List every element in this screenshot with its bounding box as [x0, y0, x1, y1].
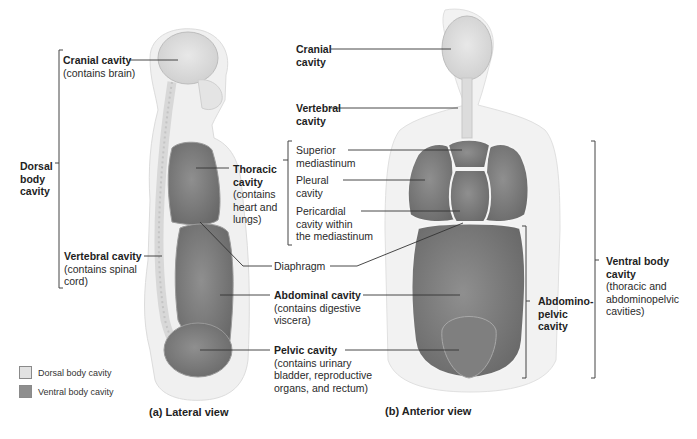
label-abdominopelvic-cavity: Abdomino- pelvic cavity: [538, 295, 593, 333]
label-line: Cranial: [296, 43, 332, 56]
label-pelvic-cavity: Pelvic cavity (contains urinary bladder,…: [274, 344, 372, 394]
anterior-body: [385, 9, 560, 392]
label-line: cavity: [20, 185, 53, 198]
label-dorsal-body-cavity: Dorsal body cavity: [20, 160, 53, 198]
label-ventral-body-cavity: Ventral body cavity (thoracic and abdomi…: [606, 255, 679, 318]
label-line: cavity within: [296, 218, 373, 231]
label-sub: cavities): [606, 305, 679, 318]
legend-label: Ventral body cavity: [38, 387, 114, 397]
label-line: Superior: [296, 144, 356, 157]
label-line: Pericardial: [296, 205, 373, 218]
label-title: Vertebral cavity: [64, 250, 142, 263]
label-line: cavity: [296, 115, 341, 128]
label-title: Ventral body: [606, 255, 679, 268]
label-cranial-cavity-anterior: Cranial cavity: [296, 43, 332, 68]
label-superior-mediastinum: Superior mediastinum: [296, 144, 356, 169]
label-vertebral-cavity-lateral: Vertebral cavity (contains spinal cord): [64, 250, 142, 288]
label-title: Thoracic: [233, 163, 277, 176]
label-sub: (contains brain): [63, 67, 135, 80]
label-line: pelvic: [538, 308, 593, 321]
label-sub: (contains spinal: [64, 263, 142, 276]
label-pleural-cavity: Pleural cavity: [296, 174, 329, 199]
label-sub: bladder, reproductive: [274, 369, 372, 382]
label-abdominal-cavity: Abdominal cavity (contains digestive vis…: [274, 289, 361, 327]
label-title: Cranial cavity: [63, 54, 135, 67]
legend-item-ventral: Ventral body cavity: [19, 385, 114, 398]
label-sub: lungs): [233, 213, 277, 226]
label-line: cavity: [296, 187, 329, 200]
label-title: cavity: [233, 176, 277, 189]
label-sub: (thoracic and: [606, 280, 679, 293]
label-line: Dorsal: [20, 160, 53, 173]
label-sub: abdominopelvic: [606, 293, 679, 306]
label-pericardial-cavity: Pericardial cavity within the mediastinu…: [296, 205, 373, 243]
label-sub: viscera): [274, 314, 361, 327]
label-sub: (contains: [233, 188, 277, 201]
label-cranial-cavity-lateral: Cranial cavity (contains brain): [63, 54, 135, 79]
label-line: body: [20, 173, 53, 186]
label-sub: (contains digestive: [274, 302, 361, 315]
label-title: cavity: [606, 268, 679, 281]
legend-label: Dorsal body cavity: [38, 368, 112, 378]
label-vertebral-cavity-anterior: Vertebral cavity: [296, 102, 341, 127]
label-line: cavity: [296, 56, 332, 69]
label-title: Abdominal cavity: [274, 289, 361, 302]
label-sub: (contains urinary: [274, 357, 372, 370]
label-thoracic-cavity: Thoracic cavity (contains heart and lung…: [233, 163, 277, 226]
legend-item-dorsal: Dorsal body cavity: [19, 366, 112, 379]
label-title: Pelvic cavity: [274, 344, 372, 357]
legend-swatch-ventral: [19, 385, 32, 398]
label-line: cavity: [538, 320, 593, 333]
label-sub: heart and: [233, 201, 277, 214]
label-diaphragm: Diaphragm: [274, 260, 325, 273]
label-line: the mediastinum: [296, 230, 373, 243]
label-line: Abdomino-: [538, 295, 593, 308]
label-sub: cord): [64, 275, 142, 288]
label-line: Pleural: [296, 174, 329, 187]
legend-swatch-dorsal: [19, 366, 32, 379]
caption-lateral-view: (a) Lateral view: [149, 406, 228, 418]
label-sub: organs, and rectum): [274, 382, 372, 395]
label-line: mediastinum: [296, 157, 356, 170]
caption-anterior-view: (b) Anterior view: [385, 405, 471, 417]
label-line: Vertebral: [296, 102, 341, 115]
